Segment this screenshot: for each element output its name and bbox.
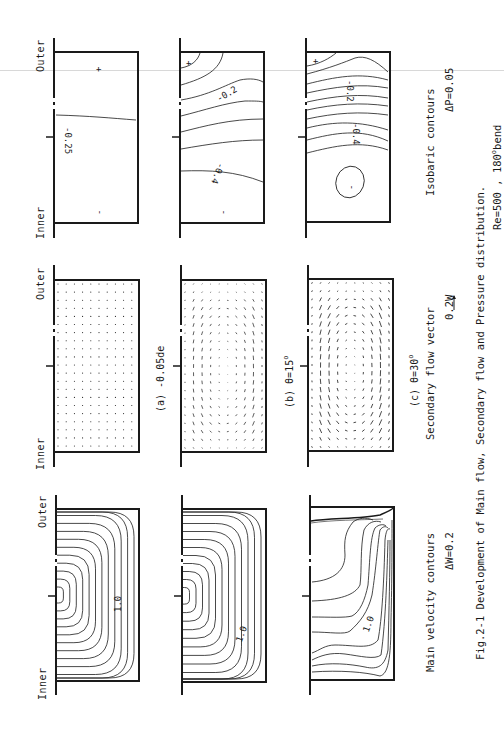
isobaric-panel-b [172,38,264,238]
secondary-panel-b-label: (b) θ=15o [282,356,295,408]
panel-a-value: -0.05de [155,346,166,388]
velocity-row-title: Main velocity contours [424,533,436,672]
figure-caption-params: Re=500 , 180obend [490,125,503,230]
panel-a-id: (a) [155,388,166,412]
isobaric-row-interval: ΔP=0.05 [443,68,455,112]
isobaric-a-contour-label: -0.25 [63,127,73,154]
secondary-panel-b [173,265,266,467]
isobaric-panel-a [46,38,138,238]
velocity-panel-b [174,495,266,695]
panel-c-degree: o [407,355,415,359]
isobaric-a-plus-label: + [93,67,103,72]
secondary-row-scale: 0.2W [443,295,455,320]
isobaric-a-outer-label: Outer [35,39,46,72]
isobaric-c-contour-label-1: -0.2 [345,80,355,102]
isobaric-b-plus-label: + [183,61,193,66]
isobaric-b-minus-label: - [218,210,228,215]
panel-b-degree: o [282,356,290,360]
secondary-panel-c-label: (c) θ=30o [407,355,420,407]
secondary-a-outer-label: Outer [35,267,46,300]
isobaric-c-contour-label-2: -0.4 [351,123,361,145]
caption-degree: o [490,150,498,154]
figure-caption: Fig.2-1 Development of Main flow, Second… [474,186,486,660]
panel-c-id: (c) [409,383,420,407]
caption-re-value: Re=500 , 180 [491,154,503,230]
velocity-row-interval: ΔW=0.2 [443,532,455,570]
velocity-panel-c [302,495,394,695]
panel-c-value: θ=30 [409,359,420,383]
secondary-row-title: Secondary flow vector [424,307,436,440]
caption-bend: bend [491,125,503,150]
isobaric-a-minus-label: - [94,210,104,215]
velocity-panel-a [48,495,139,695]
velocity-a-inner-label: Inner [37,667,48,700]
secondary-a-inner-label: Inner [35,437,46,470]
isobaric-a-inner-label: Inner [35,206,46,239]
secondary-panel-a [46,265,139,467]
velocity-a-contour-label: 1.0 [113,596,123,612]
panel-b-id: (b) [284,384,295,408]
isobaric-c-plus-label: + [310,59,320,64]
isobaric-row-title: Isobaric contours [424,89,436,196]
secondary-panel-a-label: (a) -0.05de [155,346,166,412]
isobaric-c-minus-label: - [346,185,356,190]
isobaric-panel-c [298,38,390,238]
secondary-panel-c [300,265,393,467]
velocity-a-outer-label: Outer [37,495,48,528]
panel-b-value: θ=15 [284,360,295,384]
